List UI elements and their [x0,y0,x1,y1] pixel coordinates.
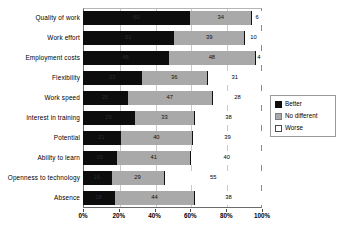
x-tick-label: 40% [148,213,161,219]
bar-segment-worse: 55 [164,171,262,185]
bar-segment-no-different: 34 [190,11,251,25]
bar-track: 162955 [83,168,262,188]
bar-segment-no-different: 39 [174,31,244,45]
category-label: Potential [0,135,83,141]
segment-value-label: 34 [218,15,224,21]
segment-value-label: 28 [234,95,240,101]
x-tick-label: 60% [184,213,197,219]
segment-value-label: 10 [250,35,256,41]
x-axis: 0%20%40%60%80%100% [83,209,262,225]
segment-value-label: 39 [206,35,212,41]
legend-item[interactable]: Better [275,99,332,110]
x-tick-label: 100% [254,213,270,219]
bar-track: 184438 [83,188,262,208]
x-tick-label: 80% [220,213,233,219]
stacked-bar: 293338 [83,111,262,125]
bar-segment-better: 19 [83,151,117,165]
bar-segment-better: 60 [83,11,190,25]
bar-segment-no-different: 41 [117,151,190,165]
bar-segment-better: 29 [83,111,135,125]
segment-value-label: 36 [171,75,177,81]
segment-value-label: 60 [133,15,139,21]
bar-segment-no-different: 36 [142,71,206,85]
segment-value-label: 40 [153,135,159,141]
bar-row: Quality of work60346 [0,8,339,28]
stacked-bar: 513910 [83,31,262,45]
bar-track: 293338 [83,108,262,128]
bar-segment-worse: 6 [251,11,262,25]
category-label: Ability to learn [0,155,83,161]
category-label: Flexibility [0,75,83,81]
chart-legend: BetterNo differentWorse [270,95,336,137]
legend-label: Better [285,101,302,107]
segment-value-label: 4 [257,55,260,61]
segment-value-label: 40 [223,155,229,161]
stacked-bar: 184438 [83,191,262,205]
segment-value-label: 31 [232,75,238,81]
category-label: Employment costs [0,55,83,61]
segment-value-label: 25 [102,95,108,101]
bar-segment-better: 18 [83,191,115,205]
segment-value-label: 48 [122,55,128,61]
stacked-bar: 48484 [83,51,262,65]
bar-row: Absence184438 [0,188,339,208]
bar-row: Openness to technology162955 [0,168,339,188]
stacked-bar: 214039 [83,131,262,145]
category-label: Work speed [0,95,83,101]
segment-value-label: 16 [94,175,100,181]
segment-value-label: 48 [209,55,215,61]
segment-value-label: 33 [161,115,167,121]
bar-segment-no-different: 44 [115,191,194,205]
bar-segment-no-different: 29 [112,171,164,185]
category-label: Work effort [0,35,83,41]
category-label: Openness to technology [0,175,83,181]
bar-segment-no-different: 33 [135,111,194,125]
segment-value-label: 41 [150,155,156,161]
stacked-bar: 194140 [83,151,262,165]
bar-segment-no-different: 40 [121,131,193,145]
bar-segment-worse: 4 [255,51,262,65]
legend-swatch-icon [275,125,282,132]
segment-value-label: 39 [224,135,230,141]
segment-value-label: 21 [98,135,104,141]
legend-swatch-icon [275,113,282,120]
segment-value-label: 38 [225,115,231,121]
legend-label: No different [285,113,317,119]
bar-segment-worse: 28 [212,91,262,105]
bar-segment-better: 21 [83,131,121,145]
category-label: Absence [0,195,83,201]
stacked-bar: 333631 [83,71,262,85]
bar-segment-worse: 31 [207,71,262,85]
segment-value-label: 44 [151,195,157,201]
bar-segment-worse: 39 [192,131,262,145]
bar-segment-no-different: 48 [169,51,255,65]
bar-track: 333631 [83,68,262,88]
legend-item[interactable]: No different [275,111,332,122]
segment-value-label: 29 [134,175,140,181]
category-label: Quality of work [0,15,83,21]
bar-track: 513910 [83,28,262,48]
bar-segment-worse: 38 [194,191,262,205]
bar-segment-no-different: 47 [128,91,212,105]
stacked-bar: 162955 [83,171,262,185]
bar-track: 60346 [83,8,262,28]
segment-value-label: 55 [210,175,216,181]
segment-value-label: 47 [167,95,173,101]
segment-value-label: 18 [95,195,101,201]
x-tick-label: 20% [112,213,125,219]
legend-item[interactable]: Worse [275,123,332,134]
category-label: Interest in training [0,115,83,121]
bar-segment-better: 51 [83,31,174,45]
bar-segment-worse: 38 [194,111,262,125]
bar-track: 254728 [83,88,262,108]
x-tick-label: 0% [78,213,87,219]
legend-label: Worse [285,125,303,131]
bar-row: Ability to learn194140 [0,148,339,168]
bar-track: 214039 [83,128,262,148]
bar-segment-worse: 40 [190,151,262,165]
segment-value-label: 33 [109,75,115,81]
bar-segment-better: 48 [83,51,169,65]
bar-track: 48484 [83,48,262,68]
bar-row: Employment costs48484 [0,48,339,68]
segment-value-label: 38 [225,195,231,201]
